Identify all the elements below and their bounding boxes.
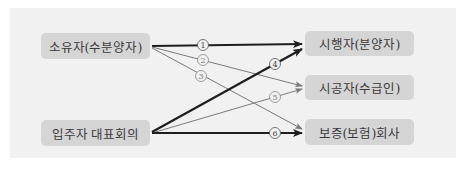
edge-label-1: 1 <box>198 40 209 51</box>
svg-text:6: 6 <box>272 129 277 138</box>
node-developer-label: 시행자(분양자) <box>319 34 401 53</box>
edge-label-6: 6 <box>270 128 281 139</box>
node-contractor: 시공자(수급인) <box>305 75 414 100</box>
svg-text:4: 4 <box>272 60 277 69</box>
node-residents-council: 입주자 대표회의 <box>41 120 150 146</box>
node-guarantor: 보증(보험)회사 <box>305 119 414 145</box>
svg-text:2: 2 <box>200 56 205 65</box>
node-residents-label: 입주자 대표회의 <box>52 124 140 143</box>
edge-3 <box>152 48 302 129</box>
svg-text:5: 5 <box>272 93 277 102</box>
svg-text:3: 3 <box>198 72 203 81</box>
node-owner: 소유자(수분양자) <box>41 33 150 59</box>
edge-label-2: 2 <box>198 55 209 66</box>
node-owner-label: 소유자(수분양자) <box>49 37 143 56</box>
edge-label-5: 5 <box>270 92 281 103</box>
node-developer: 시행자(분양자) <box>305 31 414 56</box>
edge-label-4: 4 <box>270 59 281 70</box>
edge-1 <box>152 44 302 46</box>
edge-label-3: 3 <box>196 71 207 82</box>
svg-text:1: 1 <box>200 41 205 50</box>
node-contractor-label: 시공자(수급인) <box>319 78 401 97</box>
node-guarantor-label: 보증(보험)회사 <box>319 123 401 142</box>
